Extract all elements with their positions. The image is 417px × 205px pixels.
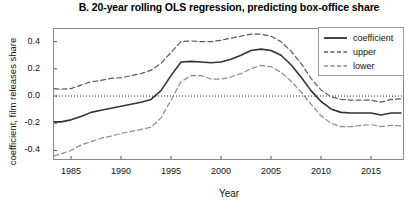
x-tick-label: 1995 [151, 166, 191, 176]
legend-key-lower [323, 61, 348, 71]
y-tick-label: -0.4 [6, 145, 40, 154]
x-tick-label: 2000 [201, 166, 241, 176]
x-axis-title: Year [53, 188, 405, 199]
legend-item-upper[interactable]: upper [323, 45, 403, 59]
y-tick-label: 0.0 [6, 91, 40, 100]
series-line-lower [54, 65, 401, 156]
x-tick-label: 2005 [251, 166, 291, 176]
y-tick-label: -0.2 [6, 118, 40, 127]
x-tick-label: 2015 [351, 166, 391, 176]
x-tick-label: 1985 [51, 166, 91, 176]
x-tick-label: 1990 [101, 166, 141, 176]
legend-label: upper [353, 47, 376, 57]
legend-item-coefficient[interactable]: coefficient [323, 31, 403, 45]
legend-key-coefficient [323, 33, 348, 43]
chart-title: B. 20-year rolling OLS regression, predi… [53, 1, 405, 13]
y-tick-label: 0.4 [6, 37, 40, 46]
legend-key-upper [323, 47, 348, 57]
y-tick-label: 0.2 [6, 64, 40, 73]
chart-figure: B. 20-year rolling OLS regression, predi… [0, 0, 417, 205]
legend-label: coefficient [353, 33, 393, 43]
chart-legend: coefficientupperlower [318, 27, 404, 76]
x-tick-label: 2010 [301, 166, 341, 176]
legend-label: lower [353, 61, 375, 71]
legend-item-lower[interactable]: lower [323, 59, 403, 73]
